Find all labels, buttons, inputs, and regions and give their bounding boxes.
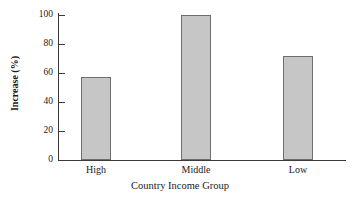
x-axis-line (58, 160, 346, 161)
bar (283, 56, 313, 160)
y-axis-tick (59, 160, 65, 161)
y-axis-line (58, 13, 59, 161)
bar-chart: Increase (%) 020406080100 HighMiddleLow … (0, 0, 360, 201)
y-axis-tick (59, 102, 65, 103)
x-axis-tick-label: Low (248, 164, 348, 176)
x-axis-tick-label: Middle (146, 164, 246, 176)
bar (181, 15, 211, 160)
y-axis-tick (59, 15, 65, 16)
bar (81, 77, 111, 160)
x-axis-title: Country Income Group (0, 180, 360, 191)
y-axis-tick (59, 131, 65, 132)
y-axis-tick (59, 73, 65, 74)
x-axis-tick-label: High (46, 164, 146, 176)
y-axis-tick-label: 40 (7, 97, 53, 107)
y-axis-tick-label: 80 (7, 39, 53, 49)
y-axis-tick-label: 100 (7, 10, 53, 20)
y-axis-tick-label: 20 (7, 126, 53, 136)
y-axis-tick-label: 60 (7, 68, 53, 78)
y-axis-tick (59, 44, 65, 45)
